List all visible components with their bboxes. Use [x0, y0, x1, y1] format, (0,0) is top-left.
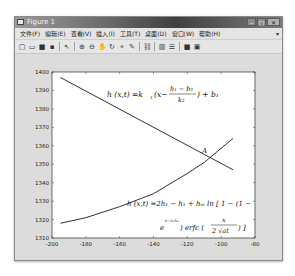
y-tick-label: 1330: [35, 198, 49, 204]
eq1-lhs: h (x,t) =k: [107, 90, 143, 99]
eq2-numerator: x: [222, 216, 226, 224]
eq1-tail: ) + b₁: [196, 90, 219, 99]
y-tick-label: 1370: [35, 124, 49, 130]
eq2-denominator: 2 √at: [211, 227, 229, 235]
x-tick-label: -100: [215, 241, 228, 247]
eq1-mid: (x−: [154, 90, 167, 99]
y-tick-label: 1340: [35, 180, 49, 186]
y-tick-label: 1380: [35, 106, 49, 112]
y-tick-label: 1390: [35, 87, 49, 93]
eq1-denominator: k₂: [178, 96, 185, 104]
x-tick-label: -80: [251, 241, 260, 247]
y-tick-label: 1350: [35, 161, 49, 167]
y-tick-label: 1320: [35, 217, 49, 223]
eq2-line1: h (x,t) =2h₁ − h₁ + hₘ ln [ 1 − (1 −: [127, 200, 251, 208]
eq2-e: e: [160, 224, 164, 232]
eq1-numerator: h₁ − b₂: [170, 85, 194, 93]
y-tick-label: 1400: [35, 69, 49, 75]
eq2-erfc: ) erfc (: [179, 224, 204, 232]
x-tick-label: -140: [147, 241, 160, 247]
eq2-exponent: h−h₁/hₘ: [165, 219, 179, 223]
eq2-tail: ) ]: [237, 224, 246, 232]
plot: 1310132013301340135013601370138013901400…: [0, 0, 295, 276]
x-tick-label: -160: [113, 241, 126, 247]
x-tick-label: -120: [181, 241, 194, 247]
x-tick-label: -180: [80, 241, 93, 247]
eq1-sub: 1: [150, 95, 153, 100]
y-tick-label: 1360: [35, 143, 49, 149]
x-tick-label: -200: [46, 241, 59, 247]
intersection-label-a: A: [201, 147, 207, 155]
